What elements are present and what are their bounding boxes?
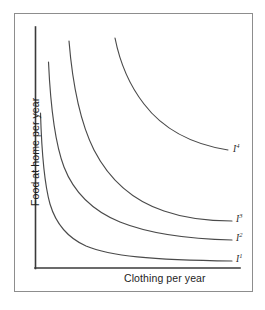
curve-label-i1: I1 bbox=[235, 252, 242, 264]
indifference-curve-figure: I4 I3 I2 I1 Food at home per year Clothi… bbox=[0, 0, 265, 310]
curve-label-i4-superscript: 4 bbox=[236, 142, 240, 149]
indifference-curve-3 bbox=[69, 41, 232, 221]
x-axis-title: Clothing per year bbox=[124, 272, 206, 284]
curve-label-i2: I2 bbox=[235, 231, 243, 243]
indifference-curve-2 bbox=[49, 62, 233, 240]
curve-label-i3-superscript: 3 bbox=[238, 212, 243, 219]
curve-label-i1-superscript: 1 bbox=[239, 252, 242, 259]
curve-label-i3: I3 bbox=[235, 212, 243, 224]
indifference-curve-4 bbox=[115, 38, 228, 150]
curve-label-i2-superscript: 2 bbox=[239, 231, 243, 238]
curve-label-i4: I4 bbox=[232, 142, 240, 154]
y-axis-title: Food at home per year bbox=[29, 26, 41, 206]
